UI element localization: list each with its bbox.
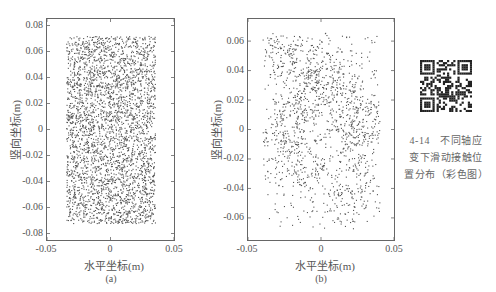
ytick-b-1: 0.04 <box>204 65 244 75</box>
ytick-a-1: 0.06 <box>3 46 43 56</box>
xtick-a-1: 0 <box>90 244 130 254</box>
plot-frame-a <box>46 18 175 241</box>
ylabel-b: 竖向坐标(m) <box>208 100 224 160</box>
plot-frame-b <box>247 18 395 241</box>
xtick-a-2: 0.05 <box>154 244 194 254</box>
caption-line-1: 4-14 不同轴应 <box>398 132 494 149</box>
ytick-b-5: -0.04 <box>204 183 244 193</box>
ytick-a-7: -0.06 <box>3 202 43 212</box>
xtick-b-0: -0.05 <box>227 244 267 254</box>
ytick-a-8: -0.08 <box>3 228 43 238</box>
xtick-a-0: -0.05 <box>26 244 66 254</box>
ylabel-a: 竖向坐标(m) <box>7 100 23 160</box>
ytick-a-2: 0.04 <box>3 72 43 82</box>
xtick-b-1: 0 <box>301 244 341 254</box>
figure-caption: 4-14 不同轴应 变下滑动接触位 置分布（彩色图） <box>398 132 494 183</box>
ytick-b-6: -0.06 <box>204 212 244 222</box>
xtick-b-2: 0.05 <box>374 244 414 254</box>
caption-line-2: 变下滑动接触位 <box>398 149 494 166</box>
xlabel-b: 水平坐标(m) <box>295 257 355 273</box>
panel-label-b: (b) <box>306 273 336 284</box>
xlabel-a: 水平坐标(m) <box>84 257 144 273</box>
panel-label-a: (a) <box>96 273 126 284</box>
caption-line-3: 置分布（彩色图） <box>398 166 494 183</box>
scatter-points-a <box>47 19 174 240</box>
scatter-points-b <box>248 19 394 240</box>
qr-code-icon <box>420 60 472 112</box>
ytick-b-0: 0.06 <box>204 36 244 46</box>
ytick-a-6: -0.04 <box>3 176 43 186</box>
ytick-a-0: 0.08 <box>3 20 43 30</box>
